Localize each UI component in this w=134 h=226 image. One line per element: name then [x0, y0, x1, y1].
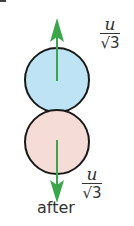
top-velocity-denominator: √3 [100, 35, 119, 51]
caption-after: after [37, 198, 75, 217]
bottom-velocity-denominator: √3 [82, 185, 101, 201]
top-velocity-label: u √3 [100, 17, 120, 51]
top-velocity-numerator: u [105, 17, 116, 32]
bottom-velocity-label: u √3 [82, 167, 102, 201]
bottom-velocity-numerator: u [87, 167, 98, 182]
cropped-border-fragment [0, 0, 6, 2]
